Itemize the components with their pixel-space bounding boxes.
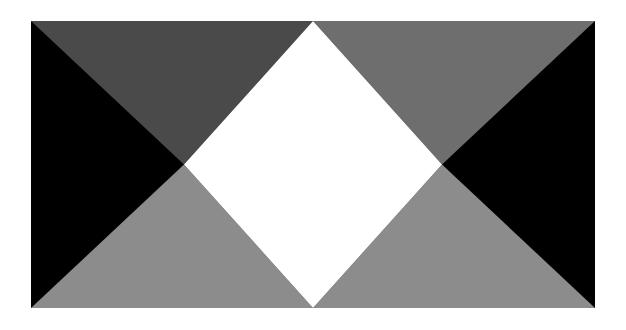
artwork-svg (31, 21, 595, 308)
canvas-root: Geometric Composition (0, 0, 626, 330)
artwork-title: Geometric Composition (0, 0, 1, 1)
artwork-frame (31, 21, 595, 308)
